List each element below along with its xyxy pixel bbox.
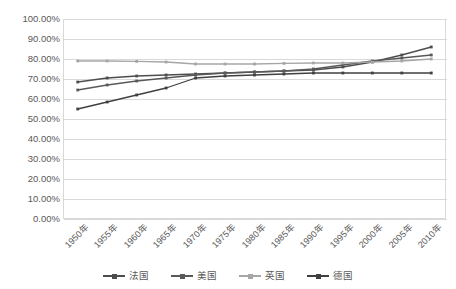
legend-item-法国[interactable]: 法国 (103, 271, 149, 281)
plot-border (63, 19, 446, 219)
legend-label: 法国 (129, 271, 149, 281)
y-axis-tick-label: 100.00% (2, 14, 60, 23)
y-axis-tick-label: 30.00% (2, 154, 60, 163)
y-axis-tick-label: 10.00% (2, 194, 60, 203)
legend-marker-icon (239, 272, 261, 280)
legend-label: 德国 (333, 271, 353, 281)
legend-marker-icon (103, 272, 125, 280)
legend-label: 美国 (197, 271, 217, 281)
y-axis-tick-label: 40.00% (2, 134, 60, 143)
legend-marker-icon (171, 272, 193, 280)
y-axis: 0.00%10.00%20.00%30.00%40.00%50.00%60.00… (0, 0, 60, 240)
y-axis-tick-label: 90.00% (2, 34, 60, 43)
legend-item-美国[interactable]: 美国 (171, 271, 217, 281)
legend-label: 英国 (265, 271, 285, 281)
legend-marker-icon (307, 272, 329, 280)
legend-item-英国[interactable]: 英国 (239, 271, 285, 281)
y-axis-tick-label: 80.00% (2, 54, 60, 63)
chart-legend: 法国美国英国德国 (0, 266, 456, 286)
y-axis-tick-label: 60.00% (2, 94, 60, 103)
y-axis-tick-label: 0.00% (2, 214, 60, 223)
y-axis-tick-label: 20.00% (2, 174, 60, 183)
x-axis: 1950年1955年1960年1965年1970年1975年1980年1985年… (63, 221, 446, 267)
y-axis-tick-label: 50.00% (2, 114, 60, 123)
line-chart: 0.00%10.00%20.00%30.00%40.00%50.00%60.00… (0, 0, 456, 289)
legend-item-德国[interactable]: 德国 (307, 271, 353, 281)
gridline (64, 219, 447, 220)
y-axis-tick-label: 70.00% (2, 74, 60, 83)
